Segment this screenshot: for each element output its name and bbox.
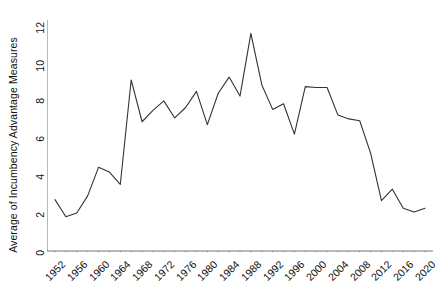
x-axis-tick-labels: 1952195619601964196819721976198019841988… [0,0,442,305]
incumbency-advantage-line-chart: Average of Incumbency Advantage Measures… [0,0,442,305]
